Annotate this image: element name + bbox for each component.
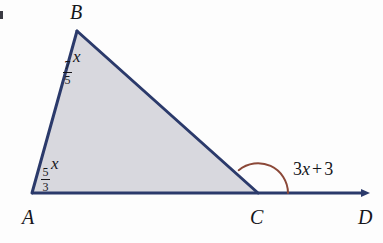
fraction-seven-fifths: 7 5 bbox=[63, 59, 72, 86]
geometry-figure: B A C D 7 5 x 5 3 x 3x+3 bbox=[0, 0, 383, 243]
variable-x: x bbox=[73, 47, 81, 66]
vertex-label-c: C bbox=[250, 207, 263, 227]
angle-label-at-a: 5 3 x bbox=[41, 155, 59, 193]
plus-operator: + bbox=[310, 159, 324, 179]
fraction-numerator: 7 bbox=[64, 59, 72, 72]
variable-x: x bbox=[302, 159, 310, 179]
fraction-denominator: 3 bbox=[42, 180, 50, 193]
fraction-five-thirds: 5 3 bbox=[41, 166, 50, 193]
angle-label-at-b: 7 5 x bbox=[63, 48, 81, 86]
fraction-denominator: 5 bbox=[64, 73, 72, 86]
figure-canvas bbox=[0, 0, 383, 243]
page-edge-artifact bbox=[0, 11, 3, 19]
constant-term: 3 bbox=[324, 159, 333, 179]
vertex-label-d: D bbox=[358, 207, 372, 227]
variable-x: x bbox=[51, 154, 59, 173]
vertex-label-a: A bbox=[22, 207, 34, 227]
fraction-numerator: 5 bbox=[42, 166, 50, 179]
vertex-label-b: B bbox=[70, 2, 82, 22]
exterior-angle-label-at-c: 3x+3 bbox=[293, 160, 333, 178]
coefficient: 3 bbox=[293, 159, 302, 179]
